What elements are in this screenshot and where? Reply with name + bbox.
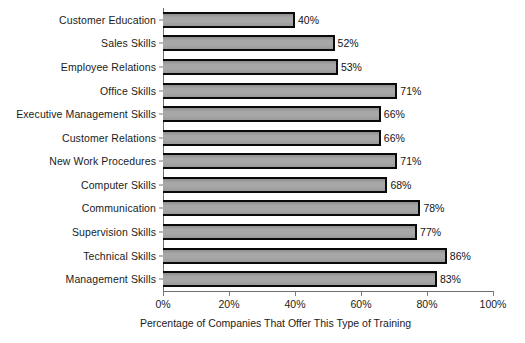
category-label: Sales Skills [101, 37, 156, 49]
bar-value-label: 53% [341, 61, 362, 73]
bar-row: Customer Relations66% [163, 126, 525, 150]
bar-row: Management Skills83% [163, 267, 525, 291]
bar-value-label: 52% [338, 37, 359, 49]
bar: 71% [163, 153, 397, 169]
x-axis-tick-label: 0% [155, 298, 170, 310]
bar-value-label: 77% [420, 226, 441, 238]
x-axis-title: Percentage of Companies That Offer This … [0, 317, 525, 329]
category-label: Supervision Skills [72, 226, 156, 238]
bar: 86% [163, 248, 447, 264]
category-label: Communication [82, 202, 156, 214]
bar-value-label: 83% [440, 273, 461, 285]
bar-row: Employee Relations53% [163, 55, 525, 79]
bar-row: New Work Procedures71% [163, 150, 525, 174]
bar-value-label: 71% [400, 85, 421, 97]
bar-value-label: 66% [384, 108, 405, 120]
bar: 83% [163, 271, 437, 287]
x-axis-tick [427, 291, 428, 296]
category-label: Technical Skills [83, 250, 156, 262]
bar-value-label: 40% [298, 14, 319, 26]
bar-value-label: 86% [450, 250, 471, 262]
bar: 53% [163, 59, 338, 75]
x-axis-tick-label: 60% [350, 298, 371, 310]
bar-row: Computer Skills68% [163, 173, 525, 197]
category-label: Customer Relations [62, 132, 156, 144]
bar-row: Customer Education40% [163, 8, 525, 32]
x-axis-tick-label: 80% [416, 298, 437, 310]
bar-row: Communication78% [163, 197, 525, 221]
bar: 40% [163, 12, 295, 28]
bar: 66% [163, 106, 381, 122]
x-axis-title-text: Percentage of Companies That Offer This … [140, 317, 411, 329]
bar-row: Technical Skills86% [163, 244, 525, 268]
bar-value-label: 78% [423, 202, 444, 214]
x-axis-tick [493, 291, 494, 296]
x-axis-tick [361, 291, 362, 296]
category-label: New Work Procedures [49, 155, 156, 167]
category-label: Office Skills [100, 85, 156, 97]
x-axis-tick-label: 20% [218, 298, 239, 310]
bar: 52% [163, 35, 335, 51]
bar-value-label: 66% [384, 132, 405, 144]
category-label: Employee Relations [61, 61, 156, 73]
x-axis-tick [163, 291, 164, 296]
bar-value-label: 71% [400, 155, 421, 167]
bar-row: Office Skills71% [163, 79, 525, 103]
bar: 68% [163, 177, 387, 193]
bar-chart: Customer Education40%Sales Skills52%Empl… [0, 0, 525, 343]
bar-series: Customer Education40%Sales Skills52%Empl… [163, 8, 525, 291]
bar-row: Supervision Skills77% [163, 220, 525, 244]
bar: 66% [163, 130, 381, 146]
bar: 78% [163, 200, 420, 216]
x-axis-tick [229, 291, 230, 296]
category-label: Computer Skills [81, 179, 156, 191]
x-axis-tick [295, 291, 296, 296]
bar: 77% [163, 224, 417, 240]
bar-row: Executive Management Skills66% [163, 102, 525, 126]
bar-row: Sales Skills52% [163, 32, 525, 56]
category-label: Executive Management Skills [16, 108, 156, 120]
category-label: Customer Education [59, 14, 156, 26]
x-axis-tick-label: 100% [480, 298, 507, 310]
bar: 71% [163, 83, 397, 99]
bar-value-label: 68% [390, 179, 411, 191]
category-label: Management Skills [66, 273, 156, 285]
x-axis-tick-label: 40% [284, 298, 305, 310]
